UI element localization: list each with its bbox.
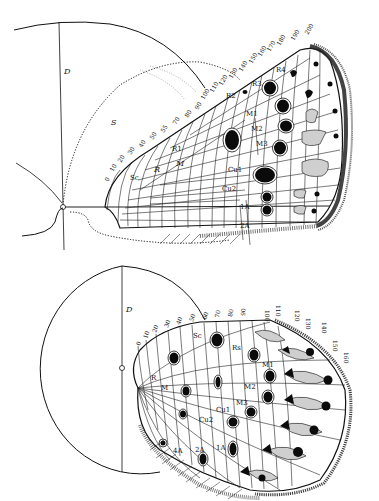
svg-text:200: 200 xyxy=(303,22,315,36)
svg-text:20: 20 xyxy=(116,153,126,163)
label-r1: R1 xyxy=(172,145,182,153)
wing-spots xyxy=(223,62,339,217)
svg-text:60: 60 xyxy=(200,311,209,321)
label-cu1: Cu1 xyxy=(216,406,230,414)
label-1a: 1A xyxy=(240,203,250,211)
reference-circle xyxy=(40,266,160,474)
svg-text:20: 20 xyxy=(150,324,159,334)
label-cu2: Cu2 xyxy=(199,416,213,424)
svg-text:10: 10 xyxy=(108,162,118,172)
label-m1: M1 xyxy=(246,110,258,118)
hinge-point xyxy=(120,366,125,371)
reference-circle-right-arc xyxy=(122,266,205,320)
label-2a: 2A xyxy=(240,222,250,230)
svg-text:70: 70 xyxy=(171,115,181,125)
label-m2: M2 xyxy=(244,383,256,391)
label-sc: Sc xyxy=(193,332,202,340)
label-r4: R4 xyxy=(276,66,286,74)
radius-line-d xyxy=(59,22,64,250)
label-sc: Sc xyxy=(130,174,139,182)
hindwing-svg: D 0 10 20 30 xyxy=(0,250,379,501)
label-cu2: Cu2 xyxy=(222,185,236,193)
svg-text:40: 40 xyxy=(137,138,147,148)
svg-text:140: 140 xyxy=(321,322,328,334)
forewing-svg: D S xyxy=(0,0,379,250)
label-d: D xyxy=(125,305,133,314)
label-m3: M3 xyxy=(236,399,248,407)
label-m: M xyxy=(161,384,168,392)
hindwing-diagram: D 0 10 20 30 xyxy=(0,250,379,501)
forewing-diagram: D S xyxy=(0,0,379,250)
label-4a: 4A xyxy=(173,447,183,455)
svg-text:90: 90 xyxy=(193,100,203,110)
svg-text:130: 130 xyxy=(305,318,312,330)
svg-text:90: 90 xyxy=(239,308,247,316)
svg-text:0: 0 xyxy=(103,176,111,183)
svg-text:80: 80 xyxy=(226,308,234,317)
svg-text:50: 50 xyxy=(187,313,196,323)
svg-text:55: 55 xyxy=(159,123,169,133)
label-s: S xyxy=(111,118,117,127)
svg-text:150: 150 xyxy=(332,340,339,352)
label-1a: 1A xyxy=(216,444,226,452)
svg-text:70: 70 xyxy=(213,309,221,318)
label-m: M xyxy=(175,159,185,168)
svg-text:10: 10 xyxy=(141,330,150,340)
label-r2: R2 xyxy=(226,92,236,100)
reference-circle-arc-lower xyxy=(16,163,62,203)
svg-text:100: 100 xyxy=(264,310,271,322)
svg-text:30: 30 xyxy=(126,145,136,155)
label-cu1: Cu1 xyxy=(228,166,242,174)
label-rs: Rs xyxy=(232,344,241,352)
svg-text:160: 160 xyxy=(343,352,350,364)
label-m2: M2 xyxy=(251,125,263,133)
label-m3: M3 xyxy=(256,140,268,148)
label-m1: M1 xyxy=(262,361,274,369)
svg-text:110: 110 xyxy=(275,305,282,317)
svg-text:120: 120 xyxy=(294,310,301,322)
svg-text:30: 30 xyxy=(162,319,171,329)
svg-text:0: 0 xyxy=(134,340,142,346)
label-r3: R3 xyxy=(252,80,262,88)
svg-text:190: 190 xyxy=(289,28,301,42)
reference-circle-arc xyxy=(14,22,205,88)
svg-text:180: 180 xyxy=(275,33,287,47)
svg-text:80: 80 xyxy=(183,108,193,118)
body-outline xyxy=(22,208,63,236)
svg-text:50: 50 xyxy=(148,130,158,140)
label-d: D xyxy=(63,67,71,76)
label-r: R xyxy=(153,165,160,174)
label-r: R xyxy=(151,374,157,382)
svg-text:40: 40 xyxy=(174,316,183,326)
faint-guide-2 xyxy=(150,66,196,92)
faint-guide-1 xyxy=(140,70,185,100)
